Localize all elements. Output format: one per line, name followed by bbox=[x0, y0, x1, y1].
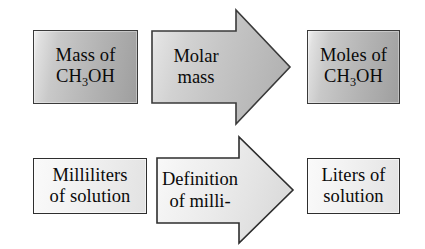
node-label-line1: Mass of bbox=[56, 45, 116, 66]
arrow-definition-of-milli-label: Definition of milli- bbox=[157, 158, 243, 223]
arrow-molar-mass: Molar mass bbox=[150, 8, 292, 126]
node-label-line2: CH3OH bbox=[324, 66, 383, 90]
node-mass-of-ch3oh: Mass of CH3OH bbox=[33, 30, 138, 104]
node-label-line2: CH3OH bbox=[56, 66, 115, 90]
node-moles-of-ch3oh: Moles of CH3OH bbox=[307, 30, 400, 104]
arrow-molar-mass-label: Molar mass bbox=[156, 31, 236, 103]
node-milliliters-of-solution: Milliliters of solution bbox=[33, 158, 147, 214]
formula-suffix: OH bbox=[88, 66, 115, 86]
node-label-line2: of solution bbox=[50, 186, 131, 207]
arrow-label-line1: Molar bbox=[173, 46, 218, 67]
node-label-line2: solution bbox=[323, 186, 383, 207]
formula-prefix: CH bbox=[56, 66, 82, 86]
arrow-label-line2: of milli- bbox=[169, 191, 230, 212]
arrow-label-line1: Definition bbox=[162, 169, 238, 190]
node-label-line1: Milliliters bbox=[52, 165, 127, 186]
formula-prefix: CH bbox=[324, 66, 350, 86]
formula-suffix: OH bbox=[356, 66, 383, 86]
node-liters-of-solution: Liters of solution bbox=[307, 158, 400, 214]
arrow-definition-of-milli: Definition of milli- bbox=[155, 135, 295, 245]
diagram-canvas: Mass of CH3OH Molar mass Moles of bbox=[0, 0, 425, 249]
arrow-label-line2: mass bbox=[178, 67, 215, 88]
node-label-line1: Moles of bbox=[320, 45, 387, 66]
node-label-line1: Liters of bbox=[321, 165, 385, 186]
